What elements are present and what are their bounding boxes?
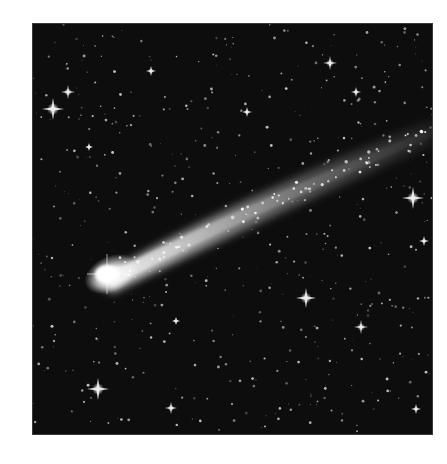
comet-head: [78, 246, 144, 302]
bright-stars: [42, 56, 429, 435]
comet-tail: [93, 119, 433, 292]
comet-illustration: [33, 24, 433, 435]
starfield-image: [32, 23, 433, 435]
